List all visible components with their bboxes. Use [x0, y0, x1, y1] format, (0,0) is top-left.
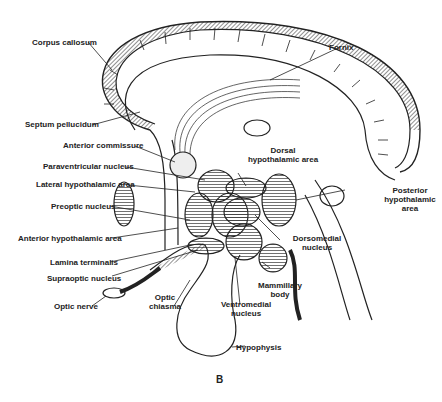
label-paraventricular-nucleus: Paraventricular nucleus [43, 162, 134, 171]
label-mammillary-body: Mammillary body [255, 281, 305, 299]
label-hypophysis: Hypophysis [236, 343, 281, 352]
anterior-commissure-shape [170, 152, 196, 178]
label-septum-pellucidum: Septum pellucidum [25, 120, 99, 129]
label-optic-chiasma: Optic chiasma [145, 293, 185, 311]
label-fornix: Fornix [329, 43, 353, 52]
label-dorsal-hypothalamic-area: Dorsal hypothalamic area [241, 146, 325, 164]
label-anterior-commissure: Anterior commissure [63, 141, 143, 150]
label-corpus-callosum: Corpus callosum [32, 38, 97, 47]
label-supraoptic-nucleus: Supraoptic nucleus [47, 274, 121, 283]
label-lamina-terminalis: Lamina terminalis [50, 258, 118, 267]
label-lateral-hypothalamic-area: Lateral hypothalamic area [36, 180, 135, 189]
label-posterior-hypothalamic-area: Posterior hypothalamic area [380, 186, 440, 213]
panel-letter: B [216, 374, 223, 385]
label-optic-nerve: Optic nerve [54, 302, 98, 311]
label-preoptic-nucleus: Preoptic nucleus [51, 202, 115, 211]
label-dorsomedial-nucleus: Dorsomedial nucleus [287, 234, 347, 252]
hypothalamus-diagram [0, 0, 442, 402]
label-anterior-hypothalamic-area: Anterior hypothalamic area [18, 234, 122, 243]
label-ventromedial-nucleus: Ventromedial nucleus [216, 300, 276, 318]
